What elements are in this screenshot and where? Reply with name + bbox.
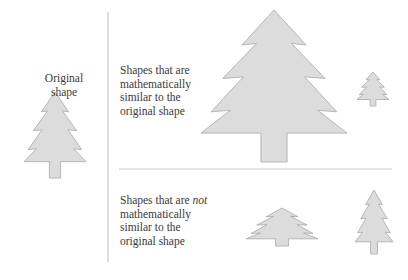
not-similar-shapes-label: Shapes that are not mathematically simil…: [120, 194, 230, 248]
label-line: mathematically: [120, 208, 230, 222]
label-line: original shape: [120, 105, 220, 119]
similar-shapes-label: Shapes that are mathematically similar t…: [120, 64, 220, 118]
tree-shape-original: [24, 92, 86, 178]
label-line: Original: [34, 72, 94, 86]
label-line: mathematically: [120, 78, 220, 92]
emphasis-not: not: [193, 194, 208, 206]
label-line: similar to the: [120, 91, 220, 105]
label-line: Shapes that are not: [120, 194, 230, 208]
tree-shape-not-similar-wide: [246, 208, 318, 246]
tree-shape-similar-large: [201, 10, 347, 162]
tree-shape-not-similar-tall: [355, 190, 393, 254]
original-shape-label: Original shape: [34, 72, 94, 99]
label-line: Shapes that are: [120, 64, 220, 78]
label-line: shape: [34, 86, 94, 100]
label-line: similar to the: [120, 221, 230, 235]
label-text: Shapes that are: [120, 194, 193, 206]
tree-shape-similar-small: [357, 72, 389, 106]
label-line: original shape: [120, 235, 230, 249]
